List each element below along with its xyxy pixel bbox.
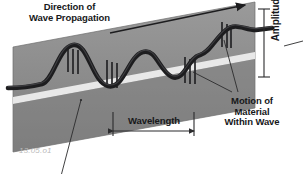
label-wavelength: Wavelength (113, 116, 195, 127)
label-motion-of-material-within-wave: Motion of Material Within Wave (204, 96, 300, 128)
medium-leader-dot (80, 99, 82, 101)
amplitude-leader (284, 41, 303, 46)
figure-id-caption: 13.05.o1 (19, 146, 52, 155)
label-direction-of-wave-propagation: Direction of Wave Propagation (22, 2, 117, 23)
wave-diagram-figure: Direction of Wave Propagation Motion of … (0, 0, 303, 174)
label-amplitude: Amplitude (271, 0, 282, 50)
amplitude-measure (258, 9, 270, 77)
